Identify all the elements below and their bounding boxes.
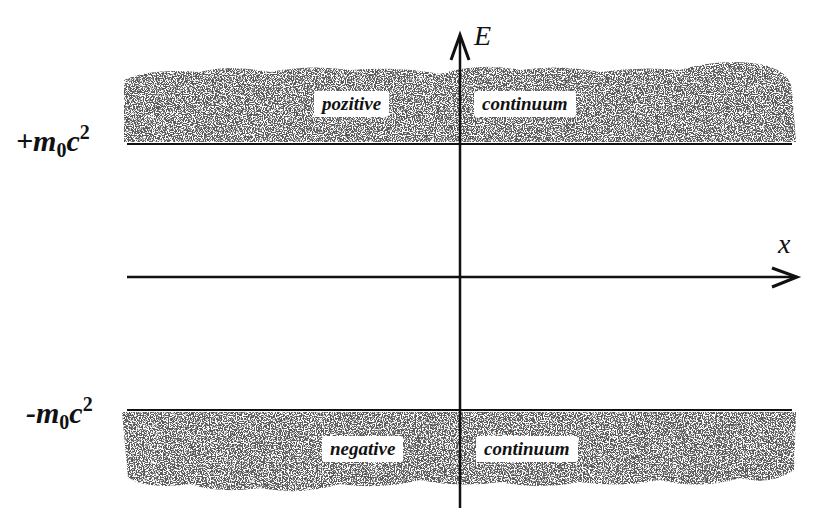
upper-level-superscript: 2 — [80, 121, 90, 143]
lower-level-sign: - — [26, 396, 36, 429]
energy-axis-label: E — [474, 20, 491, 52]
lower-level-c: c — [69, 396, 82, 429]
positive-band-label-left: pozitive — [314, 91, 389, 117]
dirac-sea-diagram: E x +m0c2 -m0c2 pozitive continuum negat… — [0, 0, 816, 526]
upper-level-c: c — [66, 124, 79, 157]
upper-level-mass: m — [33, 124, 56, 157]
negative-band-label-left: negative — [322, 436, 403, 462]
x-axis-label: x — [778, 228, 790, 260]
upper-level-sign: + — [16, 124, 33, 157]
positive-band-label-right: continuum — [474, 91, 576, 117]
lower-level-mass: m — [36, 396, 59, 429]
lower-level-label: -m0c2 — [26, 393, 93, 434]
negative-band-label-right: continuum — [476, 436, 578, 462]
lower-level-subscript: 0 — [59, 411, 69, 433]
upper-level-label: +m0c2 — [16, 121, 90, 162]
upper-level-subscript: 0 — [56, 139, 66, 161]
lower-level-superscript: 2 — [83, 393, 93, 415]
x-axis — [127, 268, 797, 287]
diagram-canvas — [0, 0, 816, 526]
